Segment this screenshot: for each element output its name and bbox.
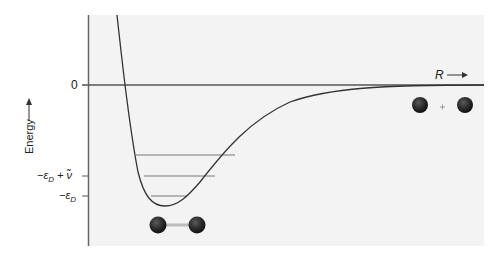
- eps-subscript: D: [70, 195, 76, 204]
- potential-energy-diagram: [0, 0, 498, 259]
- eps-symbol: −ε: [37, 169, 48, 181]
- atom-icon: [457, 97, 473, 113]
- atom-icon: [189, 217, 206, 234]
- eps-symbol: −ε: [59, 189, 70, 201]
- tick-label-eps: −εD: [59, 189, 76, 204]
- y-axis-label: Energy: [23, 119, 35, 154]
- tick-label-eps-plus-nu: −εD + ν̃: [37, 169, 72, 184]
- up-arrow-icon: [26, 98, 32, 105]
- atom-icon: [412, 97, 428, 113]
- nu-term: + ν̃: [54, 169, 72, 181]
- atom-icon: [150, 217, 167, 234]
- tick-label-zero: 0: [71, 78, 78, 92]
- potential-energy-curve: [117, 15, 484, 206]
- x-axis-label: R: [435, 68, 444, 82]
- right-arrow-icon: [462, 72, 468, 78]
